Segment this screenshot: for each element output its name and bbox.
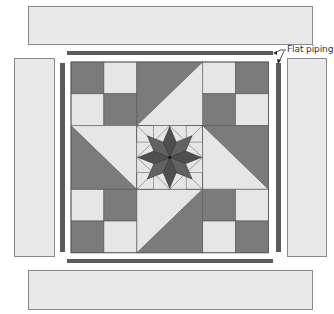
top-border-strip [29, 7, 313, 45]
right-piping [276, 63, 281, 252]
patch-square [71, 221, 104, 253]
patch-square [104, 62, 137, 94]
patch-square [236, 94, 269, 126]
bottom-piping [67, 259, 273, 263]
patch-square [203, 94, 236, 126]
top-piping [67, 51, 273, 55]
left-border-strip [15, 59, 55, 257]
patch-square [71, 62, 104, 94]
right-border-strip [288, 59, 327, 257]
hst-right [203, 126, 269, 190]
left-piping [60, 63, 65, 252]
patch-square [104, 189, 137, 221]
quilt-diagram-canvas [0, 0, 334, 314]
patch-square [203, 62, 236, 94]
bottom-border-strip [29, 271, 313, 310]
quilt-block [71, 62, 268, 253]
patch-square [71, 189, 104, 221]
patch-square [236, 62, 269, 94]
flat-piping-label: Flat piping [287, 44, 333, 54]
hst-left [71, 126, 137, 190]
lemoyne-star-center [137, 126, 203, 190]
flat-piping-leader [273, 50, 286, 64]
quilt-diagram: Flat piping [0, 0, 334, 314]
four-patch-bottom-left [71, 189, 137, 253]
patch-square [104, 221, 137, 253]
four-patch-bottom-right [203, 189, 269, 253]
hst-bottom [137, 189, 203, 253]
four-patch-top-left [71, 62, 137, 126]
patch-square [203, 189, 236, 221]
four-patch-top-right [203, 62, 269, 126]
patch-square [236, 221, 269, 253]
patch-square [71, 94, 104, 126]
patch-square [104, 94, 137, 126]
arrowhead-icon [273, 51, 277, 55]
patch-square [203, 221, 236, 253]
patch-square [236, 189, 269, 221]
star-center-point [168, 156, 171, 159]
hst-top [137, 62, 203, 126]
